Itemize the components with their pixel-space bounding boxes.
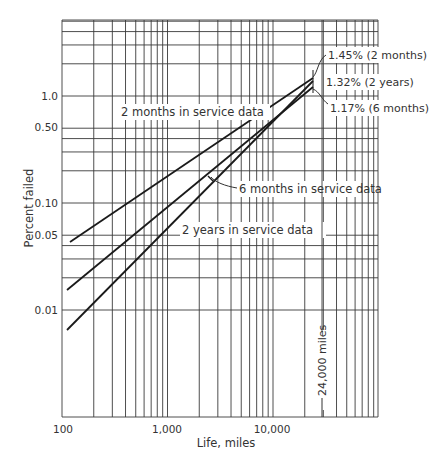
y-axis-ticks: 1.0 0.50 0.10 0.05 0.01 [35, 90, 58, 316]
x-tick-10000: 10,000 [254, 423, 291, 435]
y-tick-0-10: 0.10 [35, 197, 58, 209]
leader-1-45 [313, 55, 326, 77]
x-tick-1000: 1,000 [152, 423, 182, 435]
annotation-24000-miles: 24,000 miles [316, 324, 329, 396]
annotation-1-32: 1.32% (2 years) [326, 76, 414, 89]
annotation-1-17: 1.17% (6 months) [330, 102, 429, 115]
x-axis-title: Life, miles [197, 436, 256, 450]
series-label-2-months: 2 months in service data [121, 105, 264, 119]
x-axis-ticks: 100 1,000 10,000 [53, 423, 290, 435]
y-tick-0-05: 0.05 [35, 229, 58, 241]
series-label-6-months: 6 months in service data [239, 182, 382, 196]
leader-1-17 [313, 89, 328, 104]
weibull-chart: 2 months in service data 6 months in ser… [0, 0, 437, 464]
annotation-1-45: 1.45% (2 months) [328, 49, 427, 62]
x-tick-100: 100 [53, 423, 73, 435]
y-tick-1-0: 1.0 [41, 90, 58, 102]
series-2-months-line [70, 78, 313, 242]
y-axis-title: Percent failed [22, 169, 36, 248]
series-label-2-years: 2 years in service data [182, 223, 313, 237]
leader-6-months [211, 177, 237, 188]
y-tick-0-01: 0.01 [35, 304, 58, 316]
y-tick-0-50: 0.50 [35, 121, 58, 133]
